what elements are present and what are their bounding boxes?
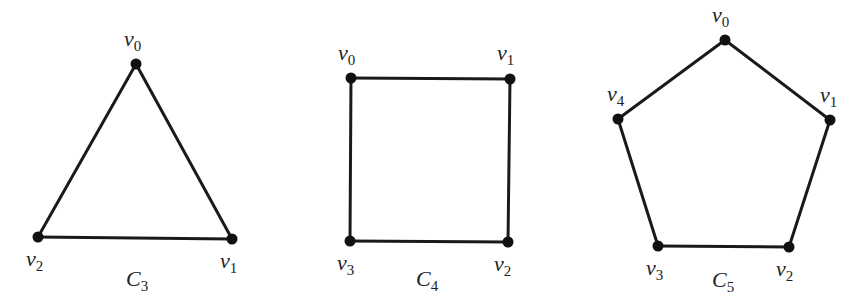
vertex-dot bbox=[825, 115, 836, 126]
vertex-dot bbox=[33, 232, 44, 243]
vertex-dot bbox=[346, 73, 357, 84]
edge bbox=[618, 119, 658, 246]
edge bbox=[350, 78, 351, 241]
vertex-label: v4 bbox=[607, 81, 625, 109]
graph-name-label: C5 bbox=[712, 267, 734, 295]
vertex-dot bbox=[131, 59, 142, 70]
vertex-label: v3 bbox=[646, 255, 663, 283]
graph-c3: v0v1v2C3 bbox=[26, 26, 238, 294]
vertex-dot bbox=[653, 241, 664, 252]
vertex-label: v1 bbox=[497, 40, 514, 68]
vertex-dot bbox=[720, 35, 731, 46]
vertex-dot bbox=[505, 74, 516, 85]
vertex-label: v1 bbox=[220, 248, 237, 276]
vertex-dot bbox=[784, 242, 795, 253]
edge bbox=[350, 241, 508, 242]
graph-name-label: C3 bbox=[126, 266, 148, 294]
edge bbox=[508, 79, 510, 242]
graph-c5: v0v1v2v3v4C5 bbox=[607, 2, 837, 295]
vertex-label: v2 bbox=[26, 246, 43, 274]
graph-c4: v0v1v2v3C4 bbox=[337, 40, 516, 294]
edge bbox=[351, 78, 510, 79]
edge bbox=[725, 40, 830, 120]
vertex-label: v0 bbox=[338, 40, 355, 68]
edge bbox=[38, 237, 232, 239]
vertex-label: v3 bbox=[337, 250, 354, 278]
vertex-dot bbox=[227, 234, 238, 245]
vertex-dot bbox=[503, 237, 514, 248]
vertex-dot bbox=[345, 236, 356, 247]
edge bbox=[658, 246, 789, 247]
vertex-label: v2 bbox=[494, 251, 511, 279]
vertex-label: v2 bbox=[776, 256, 793, 284]
vertex-label: v0 bbox=[712, 2, 729, 30]
edge bbox=[789, 120, 830, 247]
cycle-graphs-diagram: v0v1v2C3v0v1v2v3C4v0v1v2v3v4C5 bbox=[0, 0, 860, 303]
edge bbox=[38, 64, 136, 237]
vertex-label: v1 bbox=[820, 82, 837, 110]
edge bbox=[136, 64, 232, 239]
vertex-dot bbox=[613, 114, 624, 125]
edge bbox=[618, 40, 725, 119]
vertex-label: v0 bbox=[124, 26, 141, 54]
graph-name-label: C4 bbox=[416, 266, 439, 294]
